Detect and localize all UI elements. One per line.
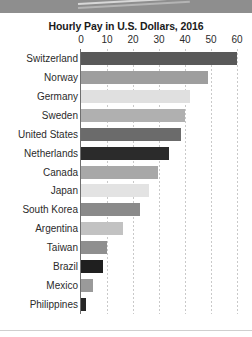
x-tick-label: 50 (205, 34, 216, 45)
category-label: Norway (44, 71, 78, 84)
page-title: Hourly Pay in U.S. Dollars, 2016 (0, 20, 252, 32)
y-axis-category-labels: SwitzerlandNorwayGermanySwedenUnited Sta… (0, 49, 252, 314)
category-label: Brazil (53, 260, 78, 273)
category-label: United States (18, 128, 78, 141)
x-tick-label: 40 (179, 34, 190, 45)
category-label: Japan (51, 184, 78, 197)
top-gray-band (0, 0, 252, 13)
category-label: Canada (43, 166, 78, 179)
category-label: Switzerland (26, 52, 78, 65)
x-tick-label: 60 (231, 34, 242, 45)
x-tick-label: 30 (153, 34, 164, 45)
category-label: Argentina (35, 222, 78, 235)
x-axis-tick-labels: 0102030405060 (81, 34, 237, 48)
category-label: Sweden (42, 109, 78, 122)
x-tick-label: 10 (101, 34, 112, 45)
category-label: Mexico (46, 279, 78, 292)
category-label: Taiwan (47, 241, 78, 254)
x-tick-label: 20 (127, 34, 138, 45)
bottom-divider (0, 330, 252, 331)
category-label: South Korea (22, 203, 78, 216)
chart-figure: Hourly Pay in U.S. Dollars, 2016 0102030… (0, 0, 252, 337)
category-label: Philippines (30, 298, 78, 311)
category-label: Netherlands (24, 147, 78, 160)
x-tick-label: 0 (78, 34, 84, 45)
category-label: Germany (37, 90, 78, 103)
